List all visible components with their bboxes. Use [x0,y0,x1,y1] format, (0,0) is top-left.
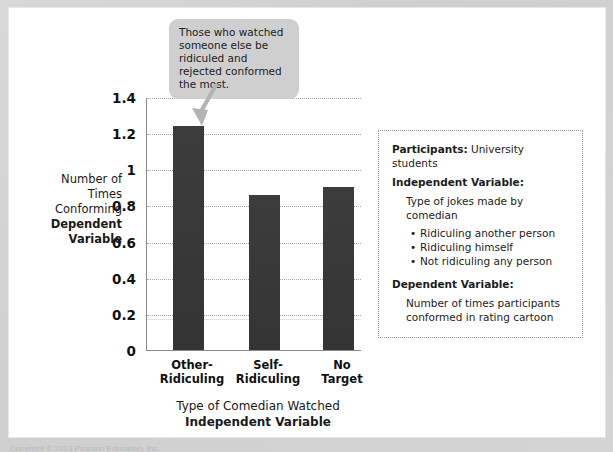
bar-no-target[interactable] [323,187,354,350]
spacer [392,268,570,277]
bar-other-ridiculing[interactable] [173,126,204,350]
participants-label: Participants: [392,143,468,155]
y-tick-label: 0 [96,343,136,359]
y-tick-label: 1.2 [96,126,136,142]
y-axis-title-line: Conforming [32,202,122,217]
dependent-variable-label: Dependent Variable: [392,277,570,291]
independent-variable-list: Ridiculing another person Ridiculing him… [392,226,570,268]
list-item: Not ridiculing any person [420,254,570,268]
y-axis-title: Number of Times Conforming Dependent Var… [32,172,122,247]
y-tick-label: 0.4 [96,271,136,287]
y-axis-title-line-bold: Dependent [32,217,122,232]
dependent-variable-line: Number of times participants [406,296,570,310]
list-item: Ridiculing himself [420,240,570,254]
y-tick-label: 0.2 [96,307,136,323]
x-axis-title-line-bold: Independent Variable [148,414,368,430]
y-axis-title-line: Number of [32,172,122,187]
y-axis-title-line: Times [32,187,122,202]
y-axis-title-line-bold: Variable [32,232,122,247]
independent-variable-label: Independent Variable: [392,175,570,189]
arrow-down-left-icon [186,84,226,130]
bar-self-ridiculing[interactable] [249,195,280,350]
x-label-line: No [282,358,402,372]
x-tick-label-no-target: No Target [282,358,402,386]
participants-row: Participants: University students [392,142,570,170]
x-axis-title-line: Type of Comedian Watched [148,398,368,414]
x-label-line: Target [282,372,402,386]
study-details-box: Participants: University students Indepe… [378,130,583,338]
dependent-variable-description: Number of times participants conformed i… [406,296,570,324]
x-axis-title: Type of Comedian Watched Independent Var… [148,398,368,430]
y-tick-label: 1.4 [96,90,136,106]
list-item: Ridiculing another person [420,226,570,240]
independent-variable-description: Type of jokes made by comedian [406,194,570,222]
dependent-variable-line: conformed in rating cartoon [406,310,570,324]
plot-area [146,98,361,351]
